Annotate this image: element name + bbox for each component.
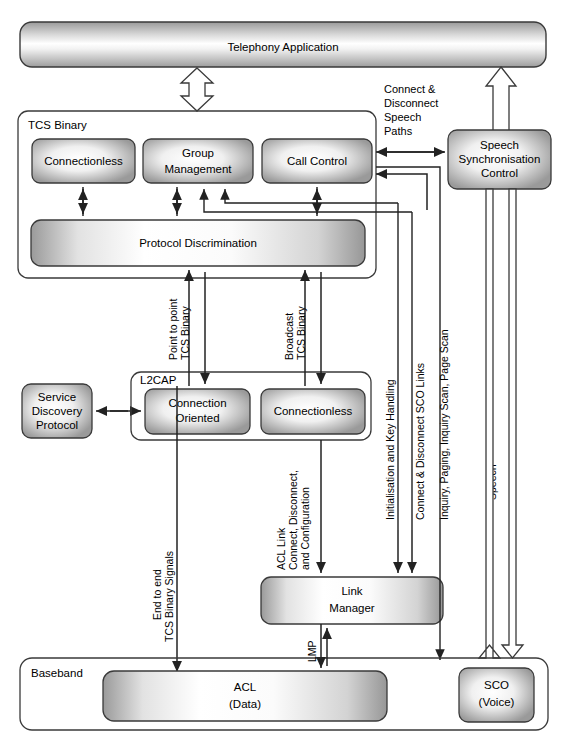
link-manager-block[interactable]: Link Manager xyxy=(261,577,443,624)
lmp-label: LMP xyxy=(306,640,318,662)
sco-block[interactable]: SCO (Voice) xyxy=(459,668,534,722)
point-to-point-line1: Point to point xyxy=(167,299,179,360)
sdp-label-line2: Discovery xyxy=(32,405,83,417)
l2cap-container-label: L2CAP xyxy=(140,374,177,386)
group-management-label-line2: Management xyxy=(164,163,232,175)
init-key-handling-text: Initialisation and Key Handling xyxy=(384,379,396,520)
acl-link-line3: and Configuration xyxy=(299,487,311,570)
sco-label-line2: (Voice) xyxy=(479,696,515,708)
cdsp-line-3: Speech xyxy=(384,111,421,123)
inquiry-paging-label: Inquiry, Paging, Inquiry Scan, Page Scan xyxy=(438,329,450,520)
link-manager-label-line1: Link xyxy=(341,585,362,597)
end-to-end-line2: TCS Binary Signals xyxy=(163,551,175,642)
acl-label-line2: (Data) xyxy=(229,698,261,710)
acl-link-line1: ACL Link xyxy=(275,527,287,570)
call-control-label: Call Control xyxy=(287,155,347,167)
service-discovery-protocol-block[interactable]: Service Discovery Protocol xyxy=(22,384,92,438)
tcs-binary-container-label: TCS Binary xyxy=(28,119,87,131)
sco-links-text: Connect & Disconnect SCO Links xyxy=(414,363,426,520)
broadcast-tcs-binary-label: Broadcast TCS Binary xyxy=(283,306,307,360)
protocol-discrimination-label: Protocol Discrimination xyxy=(139,237,257,249)
group-management-label-line1: Group xyxy=(182,147,214,159)
connection-oriented-block[interactable]: Connection Oriented xyxy=(145,389,250,434)
lmp-text: LMP xyxy=(306,640,318,662)
group-management-block[interactable]: Group Management xyxy=(143,139,253,183)
tcs-connectionless-block[interactable]: Connectionless xyxy=(32,139,135,183)
diagram-canvas: Telephony Application TCS Binary Connect… xyxy=(0,0,567,743)
speech-sync-label-line2: Synchronisation xyxy=(459,153,541,165)
point-to-point-line2: TCS Binary xyxy=(179,306,191,360)
protocol-discrimination-block[interactable]: Protocol Discrimination xyxy=(31,220,365,266)
link-manager-label-line2: Manager xyxy=(329,602,375,614)
speech-sync-label-line3: Control xyxy=(481,167,518,179)
l2cap-connectionless-label: Connectionless xyxy=(274,405,353,417)
inquiry-paging-text: Inquiry, Paging, Inquiry Scan, Page Scan xyxy=(438,329,450,520)
acl-link-line2: Connect, Disconnect, xyxy=(287,470,299,570)
initialisation-key-handling-label: Initialisation and Key Handling xyxy=(384,379,396,520)
call-control-block[interactable]: Call Control xyxy=(262,139,372,183)
sdp-label-line3: Protocol xyxy=(36,419,78,431)
acl-label-line1: ACL xyxy=(234,681,257,693)
l2cap-connectionless-block[interactable]: Connectionless xyxy=(261,389,365,434)
sco-label-line1: SCO xyxy=(484,679,509,691)
protocol-stack-diagram: Telephony Application TCS Binary Connect… xyxy=(0,0,567,743)
broadcast-line1: Broadcast xyxy=(283,313,295,360)
cdsp-line-2: Disconnect xyxy=(384,97,438,109)
end-to-end-line1: End to end xyxy=(151,569,163,620)
cdsp-line-4: Paths xyxy=(384,125,413,137)
baseband-container-label: Baseband xyxy=(31,667,83,679)
connection-oriented-label-line2: Oriented xyxy=(175,412,219,424)
point-to-point-tcs-binary-label: Point to point TCS Binary xyxy=(167,299,191,360)
speech-synchronisation-control-block[interactable]: Speech Synchronisation Control xyxy=(448,130,551,189)
tcs-connectionless-label: Connectionless xyxy=(44,155,123,167)
telephony-application-label: Telephony Application xyxy=(227,41,338,53)
connect-disconnect-sco-links-label: Connect & Disconnect SCO Links xyxy=(414,363,426,520)
acl-block[interactable]: ACL (Data) xyxy=(103,671,387,721)
speech-sync-label-line1: Speech xyxy=(480,139,519,151)
broadcast-line2: TCS Binary xyxy=(295,306,307,360)
telephony-application-block[interactable]: Telephony Application xyxy=(20,22,546,67)
sdp-label-line1: Service xyxy=(38,391,76,403)
cdsp-line-1: Connect & xyxy=(384,83,436,95)
